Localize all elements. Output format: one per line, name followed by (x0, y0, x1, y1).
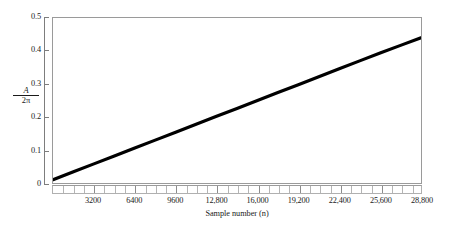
y-axis-tick-label: 0.2 (0, 113, 41, 122)
x-axis-minor-tick (279, 186, 280, 193)
y-axis-tick (44, 151, 49, 152)
x-axis-major-tick (176, 186, 177, 193)
x-axis-minor-tick (392, 186, 393, 193)
y-axis-tick-label: 0.1 (0, 147, 41, 156)
x-axis-minor-tick (402, 186, 403, 193)
x-axis-minor-tick (320, 186, 321, 193)
x-axis-tick-band (52, 185, 422, 194)
x-axis-major-tick (382, 186, 383, 193)
y-axis-tick-label: 0.5 (0, 13, 41, 22)
x-axis-minor-tick (289, 186, 290, 193)
x-axis-major-tick (94, 186, 95, 193)
y-axis-tick-label-text: 0.5 (0, 13, 41, 21)
x-axis-tick-label: 19,200 (277, 196, 321, 205)
x-axis-tick-label: 9600 (153, 196, 197, 205)
y-axis-tick-label-text: 0.2 (0, 113, 41, 121)
x-axis-minor-tick (361, 186, 362, 193)
x-axis-tick-label: 16,000 (236, 196, 280, 205)
data-line-path (53, 38, 421, 180)
x-axis-minor-tick (104, 186, 105, 193)
y-axis-tick-label: 0.3 (0, 80, 41, 89)
x-axis-title: Sample number (n) (52, 209, 422, 219)
x-axis-minor-tick (187, 186, 188, 193)
y-axis-tick (44, 50, 49, 51)
x-axis-minor-tick (228, 186, 229, 193)
y-axis-tick-label: 0.4 (0, 46, 41, 55)
x-axis-minor-tick (238, 186, 239, 193)
x-axis-minor-tick (63, 186, 64, 193)
x-axis-tick-label: 12,800 (194, 196, 238, 205)
y-axis-tick-label-text: 0.3 (0, 80, 41, 88)
y-axis-tick (44, 184, 49, 185)
x-axis-minor-tick (331, 186, 332, 193)
x-axis-tick-label: 3200 (71, 196, 115, 205)
x-axis-minor-tick (156, 186, 157, 193)
x-axis-minor-tick (351, 186, 352, 193)
plot-area (52, 17, 422, 184)
x-axis-minor-tick (74, 186, 75, 193)
x-axis-minor-tick (413, 186, 414, 193)
x-axis-tick-label: 25,600 (359, 196, 403, 205)
y-axis-spine (44, 17, 45, 184)
x-axis-minor-tick (269, 186, 270, 193)
x-axis-minor-tick (248, 186, 249, 193)
x-axis-minor-tick (310, 186, 311, 193)
x-axis-minor-tick (125, 186, 126, 193)
x-axis-major-tick (217, 186, 218, 193)
x-axis-minor-tick (115, 186, 116, 193)
x-axis-major-tick (135, 186, 136, 193)
y-axis-title-denominator: 2π (13, 96, 39, 105)
x-axis-minor-tick (84, 186, 85, 193)
x-axis-tick-label: 6400 (112, 196, 156, 205)
x-axis-minor-tick (207, 186, 208, 193)
y-axis-tick (44, 84, 49, 85)
x-axis-tick-label: 28,800 (400, 196, 444, 205)
x-axis-tick-label: 22,400 (318, 196, 362, 205)
x-axis-minor-tick (372, 186, 373, 193)
chart-figure: A 2π 00.10.20.30.40.5 32006400960012,800… (0, 0, 453, 229)
x-axis-minor-tick (146, 186, 147, 193)
y-axis-tick-label-text: 0.1 (0, 147, 41, 155)
y-axis-tick (44, 17, 49, 18)
y-axis-tick-label-text: 0 (0, 180, 41, 188)
y-axis-tick-label-text: 0.4 (0, 46, 41, 54)
x-axis-major-tick (259, 186, 260, 193)
x-axis-major-tick (300, 186, 301, 193)
x-axis-minor-tick (166, 186, 167, 193)
x-axis-minor-tick (197, 186, 198, 193)
y-axis-tick (44, 117, 49, 118)
data-series-line (53, 18, 421, 183)
x-axis-major-tick (341, 186, 342, 193)
y-axis-tick-label: 0 (0, 180, 41, 189)
